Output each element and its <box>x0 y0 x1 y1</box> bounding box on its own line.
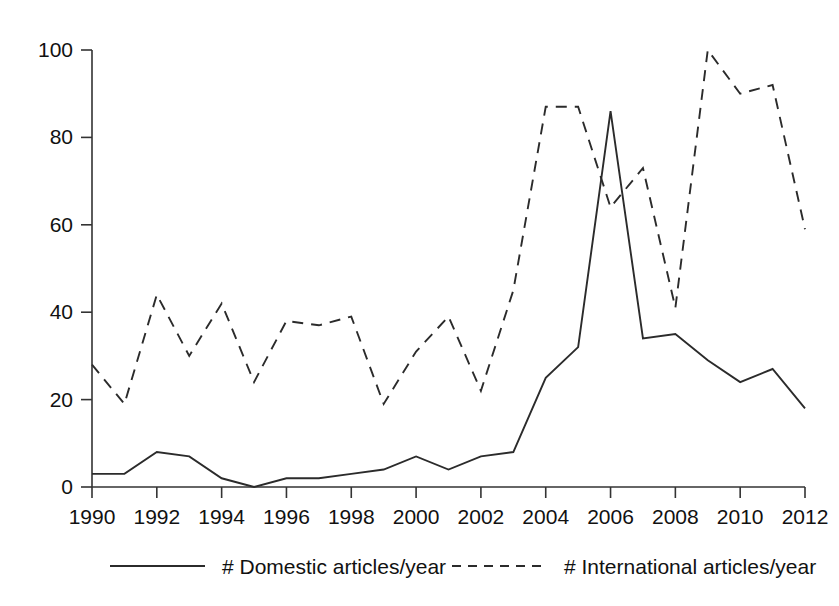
x-tick-label: 2006 <box>587 505 634 528</box>
series-line-domestic <box>92 111 805 487</box>
y-tick-label: 60 <box>50 213 73 236</box>
series-group <box>92 50 805 487</box>
x-tick-label: 1996 <box>263 505 310 528</box>
y-tick-label: 20 <box>50 388 73 411</box>
x-tick-label: 2010 <box>717 505 764 528</box>
y-tick-label: 40 <box>50 300 73 323</box>
line-chart: 020406080100 199019921994199619982000200… <box>0 0 839 606</box>
x-tick-label: 2000 <box>393 505 440 528</box>
y-tick-label: 80 <box>50 125 73 148</box>
x-tick-label: 1990 <box>69 505 116 528</box>
x-tick-group: 1990199219941996199820002002200420062008… <box>69 487 829 528</box>
x-tick-label: 2002 <box>458 505 505 528</box>
x-tick-label: 2008 <box>652 505 699 528</box>
x-tick-label: 1998 <box>328 505 375 528</box>
x-tick-label: 1994 <box>198 505 245 528</box>
legend-label-domestic: # Domestic articles/year <box>222 555 446 578</box>
x-tick-label: 1992 <box>133 505 180 528</box>
y-tick-label: 0 <box>61 475 73 498</box>
x-tick-label: 2004 <box>522 505 569 528</box>
y-tick-group: 020406080100 <box>38 38 92 498</box>
legend: # Domestic articles/year # International… <box>110 555 816 578</box>
x-tick-label: 2012 <box>782 505 829 528</box>
y-tick-label: 100 <box>38 38 73 61</box>
chart-container: 020406080100 199019921994199619982000200… <box>0 0 839 606</box>
legend-label-international: # International articles/year <box>564 555 816 578</box>
series-line-international <box>92 50 805 404</box>
